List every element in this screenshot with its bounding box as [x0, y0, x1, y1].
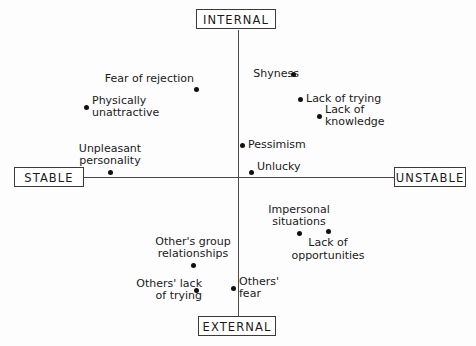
- data-point-dot: [240, 143, 245, 148]
- data-point-dot: [249, 170, 254, 175]
- data-point-dot: [317, 114, 322, 119]
- data-point-label: Other's group relationships: [123, 236, 263, 261]
- horizontal-axis-line: [84, 177, 394, 178]
- data-point-dot: [231, 286, 236, 291]
- data-point-dot: [191, 263, 196, 268]
- data-point-dot: [326, 229, 331, 234]
- data-point-label: Impersonal situations: [229, 204, 369, 229]
- pole-label-unstable: UNSTABLE: [394, 167, 466, 187]
- data-point-dot: [297, 231, 302, 236]
- data-point-label: Unpleasant personality: [40, 143, 180, 168]
- data-point-dot: [84, 105, 89, 110]
- data-point-label: Lack of opportunities: [258, 237, 398, 262]
- data-point-dot: [108, 170, 113, 175]
- data-point-label: Others' fear: [239, 276, 279, 301]
- data-point-dot: [298, 97, 303, 102]
- data-point-label: Unlucky: [257, 161, 301, 174]
- data-point-label: Physically unattractive: [92, 95, 159, 120]
- pole-label-internal: INTERNAL: [196, 9, 276, 29]
- data-point-label: Lack of knowledge: [325, 104, 385, 129]
- attribution-quadrant-figure: INTERNAL EXTERNAL STABLE UNSTABLE Fear o…: [0, 0, 476, 346]
- data-point-label: Pessimism: [248, 139, 306, 152]
- data-point-dot: [194, 87, 199, 92]
- pole-label-external: EXTERNAL: [198, 316, 276, 336]
- data-point-label: Shyness: [139, 68, 299, 81]
- pole-label-stable: STABLE: [14, 167, 84, 187]
- data-point-label: Others' lack of trying: [42, 278, 202, 303]
